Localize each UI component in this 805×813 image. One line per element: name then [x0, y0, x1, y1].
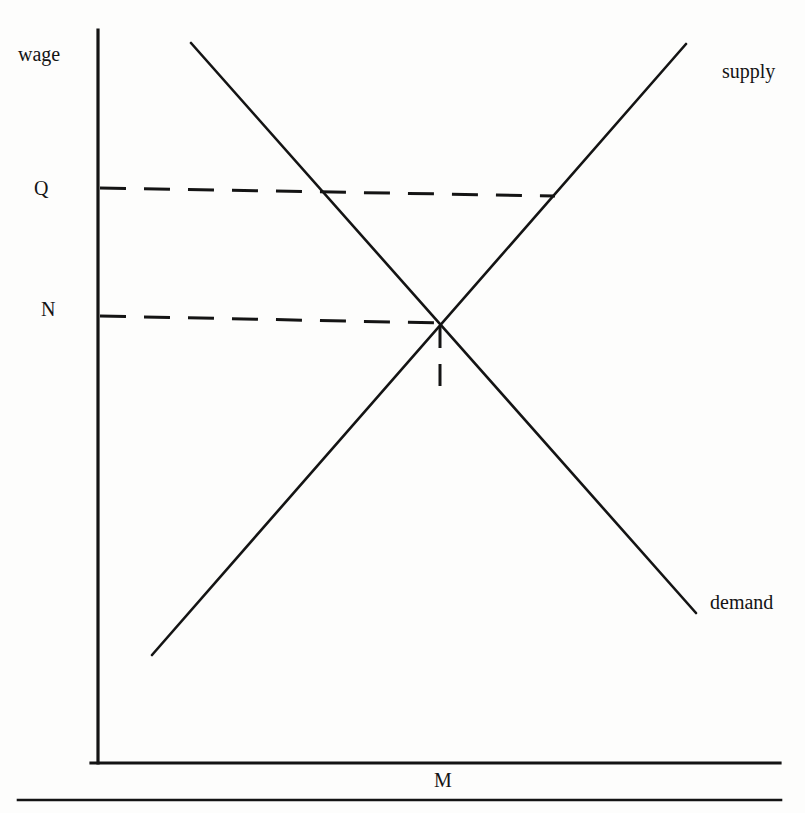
n-level-dashed-line — [100, 316, 441, 323]
q-level-dashed-line — [100, 188, 555, 196]
supply-demand-figure — [0, 0, 805, 813]
demand-curve — [191, 43, 696, 613]
supply-curve-label: supply — [722, 61, 775, 81]
wage-level-n-label: N — [41, 299, 55, 319]
figure-page: wage M supply demand Q N — [0, 0, 805, 813]
y-axis-label: wage — [18, 44, 60, 64]
demand-curve-label: demand — [710, 592, 773, 612]
supply-curve — [152, 44, 686, 655]
x-axis-label: M — [434, 770, 452, 790]
wage-level-q-label: Q — [34, 178, 48, 198]
axes-group — [91, 30, 780, 763]
